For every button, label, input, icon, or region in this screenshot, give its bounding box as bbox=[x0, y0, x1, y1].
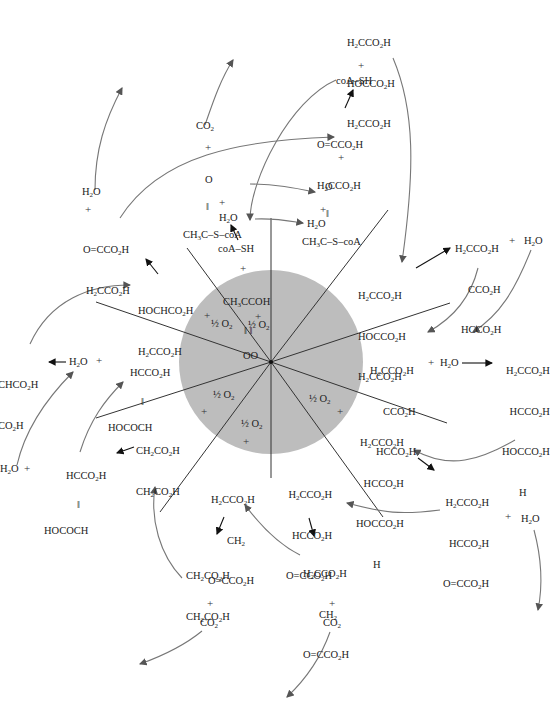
plus-sign: + bbox=[204, 309, 210, 321]
plus-sign: + bbox=[240, 262, 246, 274]
oxaloacetate-left: O=CCO2H H2CCO2H bbox=[83, 219, 130, 313]
malate-left: HOCHCO2H H2CCO2H bbox=[138, 280, 193, 374]
plus-sign: + bbox=[219, 196, 225, 208]
isocitrate-right: H2CCO2H HCCO2H HOCCO2H H bbox=[502, 340, 550, 512]
plus-sign: + bbox=[337, 405, 343, 417]
plus-sign: + bbox=[243, 435, 249, 447]
acetyl-coa-right: O ‖ CH3C–S–coA bbox=[302, 164, 361, 260]
isocitrate-mid: H2CCO2H HCCO2H HOCCO2H H bbox=[356, 412, 404, 584]
plus-sign: + bbox=[205, 141, 211, 153]
plus-sign: + bbox=[24, 462, 30, 474]
half-o2-label: ½ O2 bbox=[248, 319, 270, 332]
half-o2-label: ½ O2 bbox=[211, 318, 233, 331]
plus-sign: + bbox=[509, 234, 515, 246]
h2o-right: H2O bbox=[307, 218, 326, 233]
half-o2-label: ½ O2 bbox=[241, 418, 263, 431]
h2o-bottom-left: H2O bbox=[0, 463, 19, 478]
acetyl-coa-left: O ‖ CH3C–S–coA bbox=[183, 157, 242, 253]
plus-sign: + bbox=[338, 151, 344, 163]
plus-sign: + bbox=[85, 203, 91, 215]
h2o-top-left: H2O bbox=[82, 186, 101, 201]
coa-sh-top: coA–SH bbox=[336, 75, 372, 87]
half-o2-label: ½ O2 bbox=[213, 389, 235, 402]
krebs-cycle-diagram: H2CCO2H HOCCO2H H2CCO2H + coA–SH O=CCO2H… bbox=[0, 0, 559, 705]
plus-sign: + bbox=[96, 354, 102, 366]
h2o-fumarate: H2O bbox=[69, 356, 88, 371]
co2-bottom-right: CO2 bbox=[323, 617, 341, 632]
plus-sign: + bbox=[428, 356, 434, 368]
h2o-far-right: H2O bbox=[521, 513, 540, 528]
h2o-left: H2O bbox=[219, 212, 238, 227]
cis-aconitate-top: H2CCO2H CCO2H HCCO2H bbox=[455, 218, 501, 352]
plus-sign: + bbox=[320, 203, 326, 215]
co2-bottom-left: CO2 bbox=[200, 617, 218, 632]
plus-sign: + bbox=[505, 510, 511, 522]
co2-top: CO2 bbox=[196, 120, 214, 135]
oxalosuccinate-right: H2CCO2H HCCO2H O=CCO2H bbox=[443, 472, 489, 606]
plus-sign: + bbox=[201, 405, 207, 417]
alpha-ketoglutarate-bottom: H2CCO2H CH2 O=CCO2H bbox=[303, 543, 349, 677]
malate-edge: CHCO2H CO2H bbox=[0, 354, 38, 448]
plus-sign: + bbox=[358, 59, 364, 71]
h2o-aconitate: H2O bbox=[524, 235, 543, 250]
fumarate-bottom: HCCO2H ‖ HOCOCH bbox=[44, 454, 106, 545]
half-o2-label: ½ O2 bbox=[309, 393, 331, 406]
h2o-mid: H2O bbox=[440, 357, 459, 372]
plus-sign: + bbox=[329, 597, 335, 609]
coa-sh-center: coA–SH bbox=[218, 243, 254, 255]
plus-sign: + bbox=[207, 597, 213, 609]
